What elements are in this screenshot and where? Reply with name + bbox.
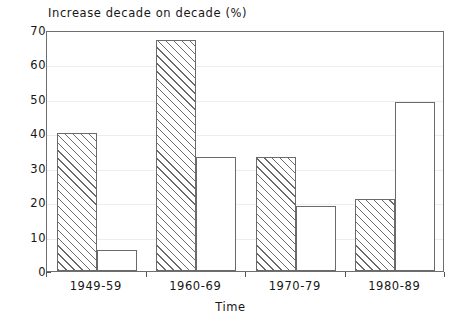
x-tick-label: 1949-59 [70,279,122,293]
y-tick-label: 40 [8,127,46,141]
gridline [47,101,443,102]
bar-1960-69-series-1-hatched [156,40,196,271]
x-axis-ticks [46,272,444,278]
x-tick-mark [46,272,47,277]
plot-area [46,31,444,272]
y-axis: 010203040506070 [0,31,46,272]
y-tick-label: 10 [8,231,46,245]
gridline [47,135,443,136]
bar-1949-59-series-1-hatched [57,133,97,271]
bar-1960-69-series-2-plain [196,157,236,271]
x-tick-mark [245,272,246,277]
y-tick-label: 0 [8,265,46,279]
bar-1980-89-series-1-hatched [355,199,395,271]
gridline [47,66,443,67]
bar-1980-89-series-2-plain [395,102,435,271]
x-tick-label: 1970-79 [269,279,321,293]
bar-chart: Increase decade on decade (%) 0102030405… [0,0,461,322]
gridline [47,170,443,171]
x-tick-mark [146,272,147,277]
y-tick-label: 60 [8,58,46,72]
bar-1970-79-series-1-hatched [256,157,296,271]
y-tick-label: 50 [8,93,46,107]
y-tick-label: 30 [8,162,46,176]
x-tick-label: 1980-89 [368,279,420,293]
x-tick-mark [444,272,445,277]
x-axis-title: Time [0,300,461,314]
chart-title: Increase decade on decade (%) [48,6,247,20]
y-tick-label: 70 [8,24,46,38]
bar-1949-59-series-2-plain [97,250,137,271]
y-tick-label: 20 [8,196,46,210]
bar-1970-79-series-2-plain [296,206,336,271]
x-tick-mark [345,272,346,277]
x-tick-label: 1960-69 [169,279,221,293]
